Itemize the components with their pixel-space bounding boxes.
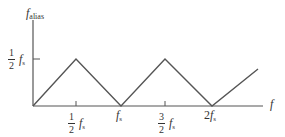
y-tick-label-fraction: 1 2 [8,48,15,71]
y-axis-label: falias [26,6,44,21]
y-axis-label-sub: alias [29,12,44,21]
x-tick-label-three-halves-fs: fs [169,116,175,131]
fraction-denominator: 2 [159,125,164,135]
fs-subscript: s [82,123,85,131]
fraction-numerator: 3 [159,112,164,122]
fraction-denominator: 2 [9,61,14,71]
x-tick-label-three-halves-fraction: 3 2 [158,112,165,135]
fs-subscript: s [119,115,122,123]
x-axis-label: f [270,97,273,112]
y-tick-label-fs: fs [19,52,25,67]
x-tick-label-two-fs: 2fs [204,108,216,123]
fraction-numerator: 1 [69,112,74,122]
fraction-denominator: 2 [69,125,74,135]
fraction-numerator: 1 [9,48,14,58]
fs-subscript: s [22,59,25,67]
x-tick-label-fs: fs [116,108,122,123]
fs-subscript: s [213,115,216,123]
x-tick-label-half-fs: fs [79,116,85,131]
x-tick-label-half-fraction: 1 2 [68,112,75,135]
alias-curve [33,59,258,106]
fs-subscript: s [172,123,175,131]
